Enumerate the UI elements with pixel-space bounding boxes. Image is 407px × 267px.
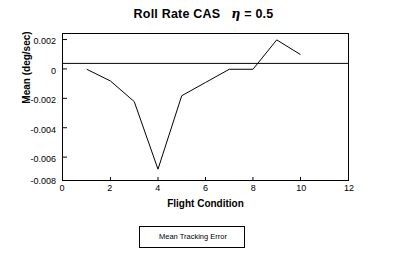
x-axis-tick-labels: 0 2 4 6 8 10 12 [62, 183, 349, 197]
x-axis-ticks [110, 177, 300, 181]
x-tick-label-2: 4 [155, 183, 160, 193]
x-tick-label-1: 2 [107, 183, 112, 193]
y-tick-label-3: -0.004 [30, 125, 56, 135]
y-tick-label-2: -0.002 [30, 95, 56, 105]
chart-title-main: Roll Rate CAS [134, 7, 221, 21]
x-tick-label-6: 12 [344, 183, 354, 193]
eta-symbol: η [231, 6, 240, 21]
y-tick-label-5: -0.008 [30, 176, 56, 186]
y-tick-label-4: -0.006 [30, 154, 56, 164]
plot-frame [62, 33, 349, 181]
x-axis-title: Flight Condition [62, 198, 349, 209]
chart-title: Roll Rate CAS η = 0.5 [0, 6, 407, 21]
x-tick-label-0: 0 [59, 183, 64, 193]
x-tick-label-4: 8 [251, 183, 256, 193]
chart-container: Roll Rate CAS η = 0.5 0.002 0 -0.002 -0.… [0, 0, 407, 267]
legend-entry-label: Mean Tracking Error [140, 232, 246, 241]
y-axis-ticks [63, 40, 67, 158]
x-tick-label-5: 10 [296, 183, 306, 193]
plot-area [63, 34, 348, 181]
data-series-mean-tracking-error [87, 40, 301, 169]
legend-box: Mean Tracking Error [139, 226, 245, 248]
y-tick-label-0: 0.002 [33, 36, 56, 46]
eta-value: = 0.5 [244, 7, 273, 21]
y-tick-label-1: 0 [51, 66, 56, 76]
y-axis-title: Mean (deg/sec) [21, 8, 32, 128]
x-tick-label-3: 6 [203, 183, 208, 193]
